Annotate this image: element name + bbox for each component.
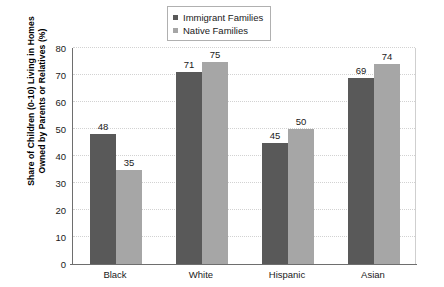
legend-swatch-icon (173, 28, 178, 33)
bar (262, 143, 288, 265)
bar-value-label: 35 (116, 157, 142, 168)
y-axis-tick-label: 10 (44, 232, 66, 243)
x-axis-tick-label: Asian (323, 269, 423, 280)
legend-label: Native Families (183, 25, 248, 36)
y-axis-tick-label: 20 (44, 205, 66, 216)
legend-swatch-icon (173, 15, 178, 20)
bar-value-label: 48 (90, 121, 116, 132)
y-axis-tick-label: 50 (44, 124, 66, 135)
x-axis-tick-label: Black (65, 269, 165, 280)
bar (288, 129, 314, 264)
y-axis-tick-label: 60 (44, 97, 66, 108)
bar-value-label: 45 (262, 130, 288, 141)
y-axis-tick-labels: 01020304050607080 (42, 48, 66, 264)
x-axis-tick-label: Hispanic (237, 269, 337, 280)
bar (202, 62, 228, 265)
bar (374, 64, 400, 264)
chart-legend: Immigrant Families Native Families (167, 6, 271, 41)
gridline (73, 47, 415, 48)
bar-value-label: 74 (374, 51, 400, 62)
x-axis-line (70, 264, 417, 265)
y-axis-tick-label: 30 (44, 178, 66, 189)
bar (348, 78, 374, 264)
plot-area: 4835717545506974 (72, 48, 416, 264)
y-axis-tick-label: 0 (44, 259, 66, 270)
legend-label: Immigrant Families (183, 12, 263, 23)
bar-value-label: 50 (288, 116, 314, 127)
y-axis-tick-label: 70 (44, 70, 66, 81)
bar (176, 72, 202, 264)
x-axis-tick-label: White (151, 269, 251, 280)
bar-value-label: 75 (202, 49, 228, 60)
y-axis-tick-label: 40 (44, 151, 66, 162)
y-axis-title-line-1: Share of Children (0-10) Living in Homes (26, 0, 37, 216)
bar-value-label: 69 (348, 65, 374, 76)
bar (90, 134, 116, 264)
legend-item-immigrant-families: Immigrant Families (173, 11, 263, 23)
bar (116, 170, 142, 265)
bar-chart: Immigrant Families Native Families Share… (0, 0, 444, 287)
legend-item-native-families: Native Families (173, 24, 263, 36)
bar-value-label: 71 (176, 59, 202, 70)
y-axis-tick-label: 80 (44, 43, 66, 54)
